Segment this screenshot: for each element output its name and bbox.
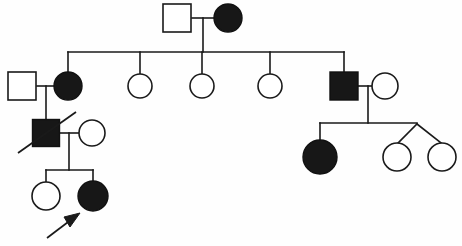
- individual-II-0-male-unaffected: [8, 72, 36, 100]
- individual-II-3-female-unaffected: [190, 74, 214, 98]
- individual-II-4-female-unaffected: [258, 74, 282, 98]
- individual-I-2-female-affected: [214, 4, 242, 32]
- individual-II-6-female-unaffected: [372, 73, 398, 99]
- proband-arrow-icon: [47, 213, 80, 238]
- individual-III-5-female-unaffected-twin: [428, 143, 456, 171]
- twin-connector-right: [417, 124, 441, 143]
- individual-II-2-female-unaffected: [128, 74, 152, 98]
- sibship-line-gen2-group: [68, 52, 344, 74]
- pedigree-chart: [0, 0, 462, 246]
- individual-II-1-female-affected: [54, 72, 82, 100]
- generation-2-group: [8, 72, 398, 100]
- individual-III-4-female-unaffected-twin: [383, 143, 411, 171]
- individual-IV-2-female-affected-proband: [78, 181, 108, 211]
- generation-3-right-group: [303, 140, 456, 174]
- generation-4-group: [32, 170, 108, 211]
- generation-1-group: [163, 4, 242, 52]
- twin-connector-left: [398, 124, 417, 143]
- individual-III-2-female-unaffected: [79, 120, 105, 146]
- generation-3-left-group: [18, 112, 105, 170]
- individual-II-5-male-affected: [330, 72, 358, 100]
- pedigree-canvas: [0, 0, 462, 246]
- individual-I-1-male-unaffected: [163, 4, 191, 32]
- individual-IV-1-female-unaffected: [32, 182, 60, 210]
- proband-arrow-head: [64, 213, 80, 227]
- individual-III-3-female-affected: [303, 140, 337, 174]
